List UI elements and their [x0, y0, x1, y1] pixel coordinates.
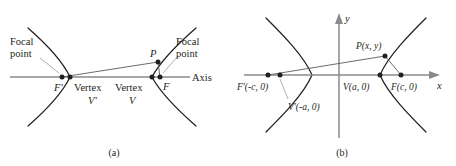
dot-point-p [383, 54, 388, 59]
ray-focus-left-to-p [268, 56, 385, 75]
label-vertex-right-word: Vertex [115, 82, 143, 93]
dot-vertex-left [278, 73, 283, 78]
label-point-p: P [149, 48, 157, 59]
label-vertex-right: V(a, 0) [343, 82, 369, 93]
panel-a: Focal point Focal point F' Vertex V' Ver… [0, 0, 228, 166]
caption-panel-a: (a) [108, 147, 119, 159]
label-vertex-left: V'(-a, 0) [288, 102, 320, 113]
dot-vertex-left [68, 75, 73, 80]
panel-b-drawing: y x P(x, y) F'(-c, 0) V'(-a, 0) V(a, 0) … [228, 0, 456, 166]
leader-focal-point-left [40, 58, 59, 73]
y-axis-arrow [335, 13, 343, 24]
dot-focus-right [158, 75, 163, 80]
label-focal-point-right-line1: Focal [176, 36, 199, 47]
label-vertex-right-symbol: V [129, 95, 137, 106]
panel-b: y x P(x, y) F'(-c, 0) V'(-a, 0) V(a, 0) … [228, 0, 456, 166]
label-y-axis: y [344, 13, 350, 24]
label-focal-point-right-line2: point [176, 48, 198, 59]
x-axis-arrow [429, 71, 440, 79]
label-focus-right: F(c, 0) [390, 82, 417, 93]
dot-focus-right [399, 73, 404, 78]
label-focus-right: F [162, 81, 170, 92]
dot-focus-left [60, 75, 65, 80]
label-vertex-left-symbol: V' [88, 95, 97, 106]
label-focal-point-left-line1: Focal [10, 36, 33, 47]
dot-point-p [156, 60, 161, 65]
leader-vertex-left [280, 79, 288, 99]
dot-focus-left [266, 73, 271, 78]
label-vertex-left-word: Vertex [74, 82, 102, 93]
label-focus-left: F' [53, 82, 63, 93]
panel-a-drawing: Focal point Focal point F' Vertex V' Ver… [0, 0, 228, 166]
label-focus-left: F'(-c, 0) [236, 82, 268, 93]
ray-focus-left-to-p [62, 62, 158, 77]
label-x-axis: x [436, 80, 442, 91]
dot-vertex-right [150, 75, 155, 80]
label-focal-point-left-line2: point [10, 48, 32, 59]
label-point-p: P(x, y) [355, 41, 381, 52]
caption-panel-b: (b) [336, 147, 348, 159]
label-axis: Axis [192, 72, 212, 83]
segment-p-to-focus-right [385, 56, 401, 75]
dot-vertex-right [378, 73, 383, 78]
hyperbola-figure: Focal point Focal point F' Vertex V' Ver… [0, 0, 456, 166]
